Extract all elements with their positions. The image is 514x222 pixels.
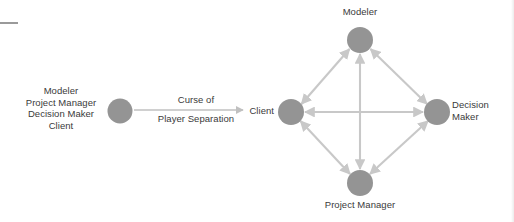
role-stack: Modeler Project Manager Decision Maker C… (14, 85, 108, 131)
edge-client-modeler (302, 49, 350, 104)
role-item-project-manager: Project Manager (14, 97, 108, 109)
role-item-decision-maker: Decision Maker (14, 108, 108, 120)
separation-arrow-label-line1: Curse of (148, 94, 244, 106)
node-label-decision-maker: Decision Maker (452, 99, 510, 122)
role-item-client: Client (14, 120, 108, 132)
node-left-aggregate[interactable] (108, 99, 133, 124)
node-label-decision-maker-line1: Decision (452, 99, 510, 111)
edge-project-manager-decision-maker (370, 121, 428, 174)
node-client[interactable] (278, 99, 304, 125)
node-decision-maker[interactable] (424, 99, 450, 125)
edge-modeler-decision-maker (371, 49, 428, 104)
edge-client-project-manager (301, 121, 351, 174)
node-label-modeler: Modeler (325, 6, 395, 18)
role-item-modeler: Modeler (14, 85, 108, 97)
node-modeler[interactable] (347, 27, 373, 53)
node-label-client: Client (228, 105, 274, 117)
node-label-decision-maker-line2: Maker (452, 111, 510, 123)
node-label-project-manager: Project Manager (312, 199, 408, 211)
node-project-manager[interactable] (347, 170, 373, 196)
diagram-canvas: Modeler Project Manager Decision Maker C… (0, 0, 514, 222)
